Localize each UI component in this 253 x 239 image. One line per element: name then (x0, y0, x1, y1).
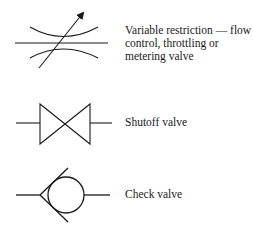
label-line: Check valve (125, 188, 250, 201)
label-line: control, throttling or (125, 37, 250, 50)
label-line: metering valve (125, 50, 250, 63)
check-valve-label: Check valve (125, 188, 250, 201)
shutoff-valve-label: Shutoff valve (125, 116, 250, 129)
variable-arrow-icon (39, 13, 83, 68)
label-line: Variable restriction — flow (125, 24, 250, 37)
lower-restriction-arc (30, 49, 98, 58)
ball-circle (48, 177, 84, 213)
bowtie-valve-body (40, 104, 90, 144)
upper-restriction-arc (30, 27, 98, 37)
shutoff-valve-symbol (16, 104, 112, 144)
variable-restriction-symbol (15, 13, 108, 68)
label-line: Shutoff valve (125, 116, 250, 129)
check-valve-symbol (16, 168, 110, 222)
variable-restriction-label: Variable restriction — flow control, thr… (125, 24, 250, 63)
